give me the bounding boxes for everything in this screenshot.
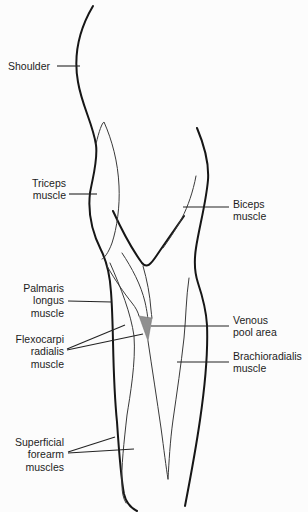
biceps-muscle-line [163,176,196,248]
leader-line-superficial-2 [68,449,134,453]
flexocarpi-radialis-line-upper [122,253,148,322]
label-venous-pool-area: Venous pool area [233,314,303,339]
label-flexocarpi-radialis-muscle: Flexocarpi radialis muscle [8,333,64,370]
leader-line-palmaris [68,301,112,302]
leader-line-superficial-1 [68,437,115,452]
brachioradialis-muscle-line [168,278,189,479]
label-triceps-muscle: Triceps muscle [20,177,66,202]
label-superficial-forearm-muscles: Superficial forearm muscles [10,436,64,473]
flexor-tendon-line [143,266,152,318]
venous-pool-area-shape [139,316,152,341]
elbow-crease-v-path [113,211,184,266]
forearm-tendon-left-line [148,341,168,479]
leader-line-flexocarpi-2 [67,334,143,350]
leader-line-flexocarpi-1 [67,325,125,349]
triceps-muscle-line [96,122,119,259]
label-palmaris-longus-muscle: Palmaris longus muscle [16,282,64,319]
label-biceps-muscle: Biceps muscle [233,198,293,223]
label-brachioradialis-muscle: Brachioradialis muscle [233,350,308,375]
label-shoulder: Shoulder [8,60,56,72]
arm-outline-right-path [185,128,208,506]
arm-outline-left-path [76,6,137,511]
diagram-page: Shoulder Triceps muscle Biceps muscle Pa… [0,0,308,512]
